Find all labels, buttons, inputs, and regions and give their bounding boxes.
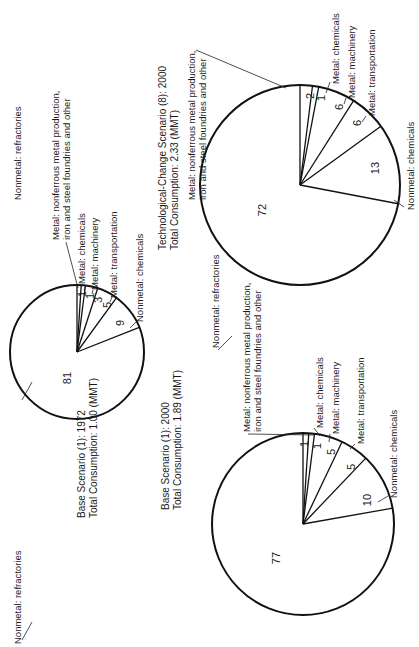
title-line1: Base Scenario (1): 1972 — [76, 378, 88, 518]
slice-divider — [300, 185, 398, 204]
title-tech-2000: Technological-Change Scenario (8): 2000T… — [157, 66, 181, 250]
label-line: iron and steel foundries and other — [197, 51, 208, 200]
title-line1: Base Scenario (1): 2000 — [160, 370, 172, 510]
slice-divider — [300, 126, 381, 185]
leader-line — [22, 622, 32, 640]
label-refractories-tech: Nonmetal: refractories — [210, 255, 221, 348]
label-refractories-1972: Nonmetal: refractories — [12, 107, 23, 200]
slice-value: 10 — [361, 494, 373, 506]
slice-value: 1 — [298, 441, 310, 447]
leader-line — [378, 496, 388, 502]
label-line: iron and steel foundries and other — [252, 283, 263, 432]
label-metal-transportation-1972: Metal: transportation — [108, 211, 119, 298]
label-line: Metal: nonferrous metal production, — [241, 283, 252, 432]
slice-value: 77 — [270, 552, 282, 564]
slice-value: 9 — [114, 320, 126, 326]
title-base-2000: Base Scenario (1): 2000Total Consumption… — [160, 370, 184, 510]
title-line2: Total Consumption: 1.89 (MMT) — [172, 370, 184, 510]
slice-value: 13 — [369, 162, 381, 174]
slice-value: 1 — [315, 95, 327, 101]
label-line: Metal: nonferrous metal production, — [186, 51, 197, 200]
slice-value: 81 — [61, 372, 73, 384]
label-nonmetal-chemicals-2000: Nonmetal: chemicals — [388, 410, 399, 498]
leader-line — [329, 434, 330, 442]
slice-value: 6 — [333, 104, 345, 110]
label-line: Metal: nonferrous metal production, — [50, 91, 61, 240]
label-metal-chemicals-2000: Metal: chemicals — [314, 357, 325, 428]
slice-value: 72 — [256, 204, 268, 216]
label-metal-machinery-1972: Metal: machinery — [89, 218, 100, 290]
leader-line — [248, 434, 314, 435]
label-line: iron and steel foundries and other — [61, 91, 72, 240]
label-nonferrous-tech: Metal: nonferrous metal production,iron … — [186, 51, 208, 200]
title-line2: Total Consumption: 2.33 (MMT) — [169, 66, 181, 250]
slice-divider — [300, 86, 313, 185]
slice-value: 1 — [311, 443, 323, 449]
slice-value: 5 — [345, 464, 357, 470]
label-metal-machinery-2000: Metal: machinery — [330, 362, 341, 434]
label-nonferrous-1972: Metal: nonferrous metal production,iron … — [50, 91, 72, 240]
slice-value: 5 — [325, 449, 337, 455]
leader-line — [196, 50, 286, 88]
label-metal-transportation-2000: Metal: transportation — [355, 357, 366, 444]
title-line2: Total Consumption: 1.00 (MMT) — [88, 378, 100, 518]
label-metal-machinery-tech: Metal: machinery — [346, 26, 357, 98]
label-refractories-2000: Nonmetal: refractories — [12, 551, 23, 644]
label-metal-chemicals-1972: Metal: chemicals — [76, 213, 87, 284]
label-metal-transportation-tech: Metal: transportation — [366, 29, 377, 116]
title-base-1972: Base Scenario (1): 1972Total Consumption… — [76, 378, 100, 518]
label-nonferrous-2000: Metal: nonferrous metal production,iron … — [241, 283, 263, 432]
label-metal-chemicals-tech: Metal: chemicals — [330, 13, 341, 84]
leader-line — [130, 322, 136, 328]
title-line1: Technological-Change Scenario (8): 2000 — [157, 66, 169, 250]
slice-value: 5 — [101, 302, 113, 308]
slice-value: 6 — [351, 120, 363, 126]
label-nonmetal-chemicals-1972: Nonmetal: chemicals — [134, 234, 145, 322]
label-nonmetal-chemicals-tech: Nonmetal: chemicals — [405, 122, 416, 210]
